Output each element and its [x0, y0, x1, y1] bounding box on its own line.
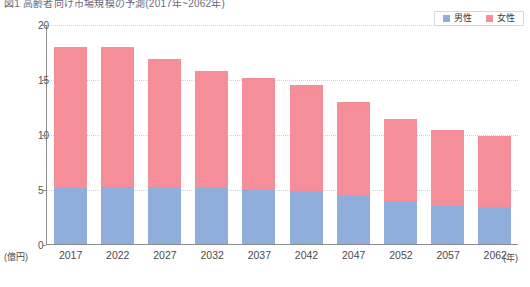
bar-segment-male[interactable] [431, 206, 464, 245]
bar-segment-female[interactable] [242, 78, 275, 189]
x-axis-unit-label: (年) [503, 251, 518, 264]
x-tick-label: 2032 [196, 249, 229, 265]
plot-area [46, 25, 518, 245]
legend-item-female[interactable]: 女性 [486, 14, 515, 23]
x-tick-label: 2027 [148, 249, 181, 265]
y-tick-mark-10 [42, 135, 46, 136]
y-axis-unit-label: (億円) [4, 250, 28, 263]
bar-group[interactable] [431, 25, 464, 244]
x-axis-line [46, 244, 518, 245]
x-axis-tick-labels: 2017202220272032203720422047205220572062 [47, 249, 519, 265]
chart-legend: 男性 女性 [434, 11, 524, 26]
bar-group[interactable] [54, 25, 87, 244]
bar-group[interactable] [290, 25, 323, 244]
figure-caption-clipped: 図1 高齢者向け市場規模の予測(2017年~2062年) [0, 0, 530, 9]
bar-segment-male[interactable] [54, 188, 87, 244]
bar-segment-male[interactable] [101, 187, 134, 244]
legend-label-male: 男性 [454, 14, 472, 23]
bar-segment-male[interactable] [242, 189, 275, 244]
bar-group[interactable] [478, 25, 511, 244]
y-tick-mark-0 [42, 245, 46, 246]
bar-segment-male[interactable] [290, 191, 323, 244]
bar-group[interactable] [101, 25, 134, 244]
x-tick-label: 2042 [290, 249, 323, 265]
bar-group[interactable] [384, 25, 417, 244]
bar-segment-female[interactable] [478, 136, 511, 207]
bar-segment-female[interactable] [54, 47, 87, 188]
y-tick-mark-20 [42, 25, 46, 26]
x-tick-label: 2047 [337, 249, 370, 265]
bar-segment-male[interactable] [337, 196, 370, 244]
bar-segment-male[interactable] [478, 207, 511, 244]
bar-group[interactable] [337, 25, 370, 244]
bar-segment-male[interactable] [148, 187, 181, 244]
bar-segment-female[interactable] [195, 71, 228, 188]
x-tick-label: 2057 [432, 249, 465, 265]
legend-swatch-female-icon [486, 15, 493, 22]
x-tick-label: 2037 [243, 249, 276, 265]
x-tick-label: 2022 [101, 249, 134, 265]
chart-root: 図1 高齢者向け市場規模の予測(2017年~2062年) 男性 女性 05101… [0, 0, 530, 287]
bar-segment-female[interactable] [148, 59, 181, 187]
bar-series-container [47, 25, 518, 244]
bar-group[interactable] [242, 25, 275, 244]
legend-swatch-male-icon [443, 15, 450, 22]
bar-segment-male[interactable] [384, 201, 417, 244]
legend-label-female: 女性 [497, 14, 515, 23]
bar-segment-male[interactable] [195, 188, 228, 244]
bar-group[interactable] [148, 25, 181, 244]
x-tick-label: 2052 [384, 249, 417, 265]
bar-segment-female[interactable] [101, 47, 134, 187]
bar-group[interactable] [195, 25, 228, 244]
bar-segment-female[interactable] [290, 85, 323, 192]
y-tick-mark-15 [42, 80, 46, 81]
bar-segment-female[interactable] [384, 119, 417, 202]
bar-segment-female[interactable] [431, 130, 464, 206]
y-tick-mark-5 [42, 190, 46, 191]
x-tick-label: 2017 [54, 249, 87, 265]
figure-caption-text: 図1 高齢者向け市場規模の予測(2017年~2062年) [4, 0, 225, 9]
legend-item-male[interactable]: 男性 [443, 14, 472, 23]
bar-segment-female[interactable] [337, 102, 370, 196]
